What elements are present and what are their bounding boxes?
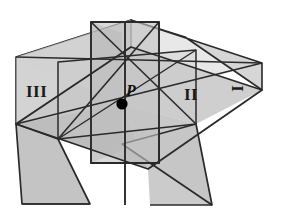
geometry-figure: III II I P bbox=[0, 0, 282, 224]
point-P-marker bbox=[116, 98, 127, 109]
region-label-two: II bbox=[184, 86, 198, 103]
three-planes-illustration bbox=[0, 0, 282, 224]
region-label-one: I bbox=[229, 85, 246, 92]
point-label-p: P bbox=[126, 83, 136, 99]
region-label-three: III bbox=[26, 83, 47, 100]
